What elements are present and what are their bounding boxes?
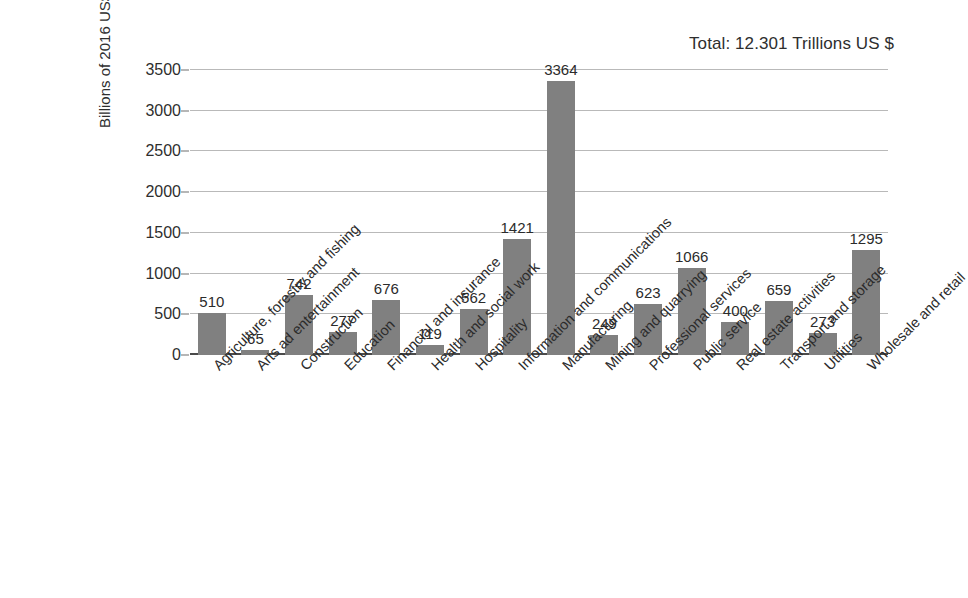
- y-axis-title: Billions of 2016 US$: [96, 0, 113, 128]
- bar-value-label: 3364: [544, 62, 577, 77]
- bar-group[interactable]: 510: [190, 70, 234, 355]
- y-tick-label: 3500: [145, 61, 181, 79]
- y-tick-mark: [181, 314, 189, 315]
- y-tick-mark: [181, 273, 189, 274]
- y-tick-label: 1500: [145, 224, 181, 242]
- bar-value-label: 659: [766, 282, 791, 297]
- y-tick-label: 3000: [145, 102, 181, 120]
- bar-value-label: 510: [199, 294, 224, 309]
- bar-group[interactable]: 1295: [844, 70, 888, 355]
- x-axis-category-labels: Agriculture, forestry and fishingArts ad…: [190, 362, 888, 562]
- total-annotation: Total: 12.301 Trillions US $: [689, 34, 894, 54]
- y-tick-mark: [181, 232, 189, 233]
- bar-group[interactable]: 676: [365, 70, 409, 355]
- y-tick-mark: [181, 110, 189, 111]
- y-tick-mark: [181, 192, 189, 193]
- bar-value-label: 1421: [501, 220, 534, 235]
- y-tick-mark: [181, 355, 189, 356]
- y-tick-label: 500: [154, 305, 181, 323]
- y-tick-label: 2500: [145, 142, 181, 160]
- bar-value-label: 623: [636, 285, 661, 300]
- bar-value-label: 1066: [675, 249, 708, 264]
- y-tick-label: 1000: [145, 265, 181, 283]
- bar-group[interactable]: 1421: [495, 70, 539, 355]
- y-tick-label: 0: [172, 346, 181, 364]
- bar-value-label: 676: [374, 281, 399, 296]
- y-tick-label: 2000: [145, 183, 181, 201]
- y-tick-mark: [181, 70, 189, 71]
- y-tick-mark: [181, 151, 189, 152]
- bar-value-label: 1295: [850, 231, 883, 246]
